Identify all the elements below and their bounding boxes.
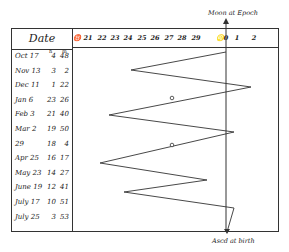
arrow-up-icon [223, 18, 229, 24]
circle-marker [170, 96, 174, 100]
arrow-down-icon [224, 229, 230, 234]
circle-markers [170, 96, 174, 147]
zigzag-diagram [0, 0, 289, 252]
zigzag-line [100, 52, 251, 232]
circle-marker [170, 143, 174, 147]
